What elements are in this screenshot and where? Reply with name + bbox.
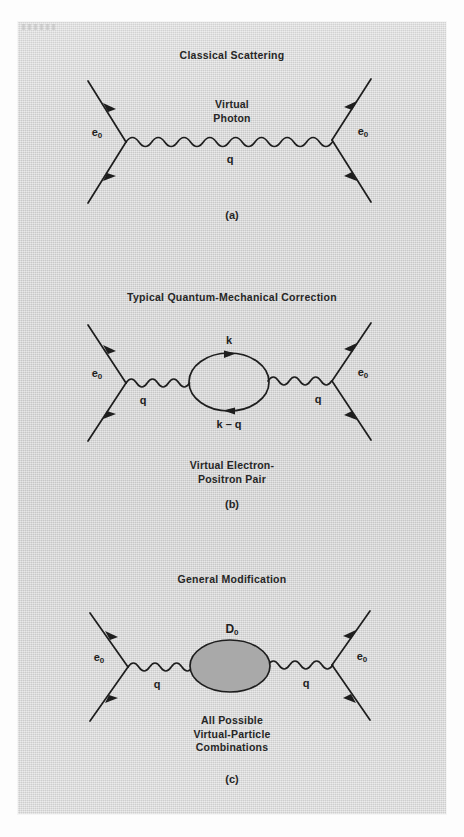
apvpc-label-line-2: Virtual-Particle — [157, 728, 307, 742]
arrowhead-upper-left-c — [105, 631, 118, 640]
panel-c-diagram — [0, 0, 464, 837]
label-e0-right-c: e0 — [349, 650, 375, 664]
photon-propagator-right-c — [268, 661, 333, 669]
general-interaction-blob — [190, 640, 270, 692]
fermion-line-lower-right-c — [332, 665, 370, 720]
apvpc-label-line-1: All Possible — [157, 714, 307, 728]
fermion-line-lower-left-c — [90, 667, 128, 721]
figure-page: Classical Scattering e0 — [0, 0, 464, 837]
label-d0-base: D — [225, 622, 234, 636]
apvpc-label-line-3: Combinations — [157, 741, 307, 755]
label-d0-sub: 0 — [234, 628, 238, 637]
label-q-c-right: q — [291, 677, 321, 689]
photon-propagator-left-c — [128, 663, 193, 671]
label-d0-blob: D0 — [215, 622, 249, 637]
label-e0-left-c-sub: 0 — [100, 656, 104, 665]
label-q-c-left: q — [142, 678, 172, 690]
label-e0-right-c-sub: 0 — [363, 655, 367, 664]
arrowhead-lower-right-c — [343, 694, 356, 703]
caption-c: (c) — [0, 773, 464, 785]
label-e0-left-c: e0 — [86, 651, 112, 665]
all-possible-virtual-particle-combinations-label: All Possible Virtual-Particle Combinatio… — [157, 714, 307, 755]
